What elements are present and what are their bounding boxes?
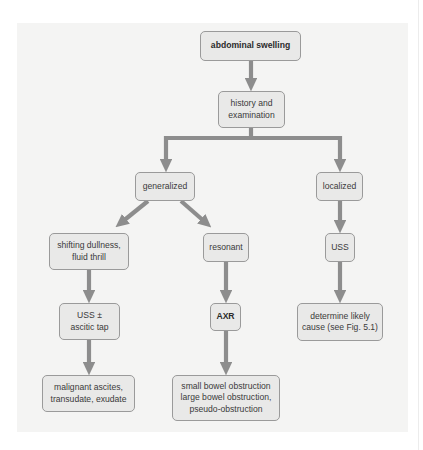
arrow-to-generalized [166, 138, 251, 164]
node-history-examination: history and examination [218, 91, 285, 128]
node-abdominal-swelling: abdominal swelling [200, 31, 301, 61]
node-generalized: generalized [135, 172, 195, 201]
node-uss-ascitic-tap: USS ± ascitic tap [59, 303, 120, 340]
node-localized: localized [316, 172, 363, 201]
node-malignant-ascites: malignant ascites, transudate, exudate [42, 375, 135, 412]
node-shifting-dullness: shifting dullness, fluid thrill [49, 233, 129, 270]
node-uss: USS [325, 233, 355, 262]
node-axr: AXR [210, 303, 241, 331]
arrow-generalized-to-resonant [181, 201, 205, 222]
node-determine-cause: determine likely cause (see Fig. 5.1) [297, 303, 383, 341]
arrow-generalized-to-shifting [122, 201, 148, 222]
node-resonant: resonant [203, 233, 249, 262]
node-bowel-obstruction: small bowel obstruction large bowel obst… [172, 375, 280, 421]
arrow-to-localized [251, 138, 340, 164]
